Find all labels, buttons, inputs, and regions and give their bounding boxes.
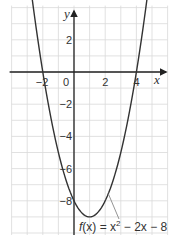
grid-lines [12,6,168,235]
x-axis-label: x [153,72,160,87]
function-label-end: − 2x − 8 [120,220,167,234]
x-tick-label: −2 [36,76,49,88]
parabola-chart: x y −2024 2−2−4−6−8 f(x) = x2 − 2x − 8 [0,0,170,240]
y-axis-label: y [62,6,70,21]
x-tick-label: 2 [102,76,108,88]
x-tick-labels: −2024 [36,76,140,88]
y-tick-label: 2 [66,34,72,46]
function-label: f(x) = x2 − 2x − 8 [79,219,167,234]
y-tick-label: −4 [59,130,72,142]
x-tick-label: 0 [63,76,69,88]
y-tick-label: −8 [59,195,72,207]
function-label-mid: (x) = x [82,220,116,234]
annotation-leader-line [108,194,119,219]
y-tick-label: −2 [59,98,72,110]
